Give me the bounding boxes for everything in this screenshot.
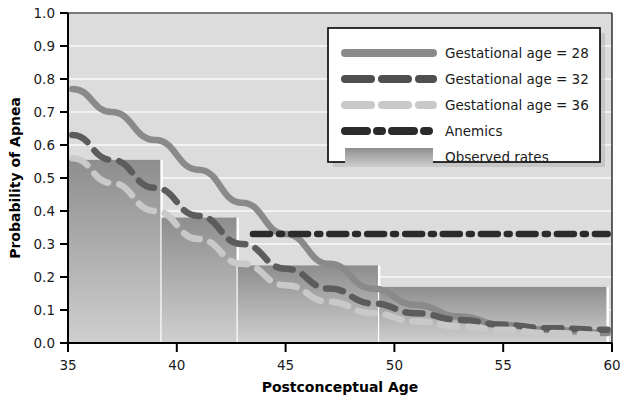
legend-label: Gestational age = 28 (445, 45, 589, 61)
apnea-probability-chart: 0.00.10.20.30.40.50.60.70.80.91.0 354045… (0, 0, 623, 402)
y-tick-label: 0.4 (34, 203, 55, 219)
legend-label: Gestational age = 36 (445, 97, 589, 113)
y-tick-label: 0.9 (34, 38, 55, 54)
chart-figure: 0.00.10.20.30.40.50.60.70.80.91.0 354045… (0, 0, 623, 402)
x-axis-title: Postconceptual Age (262, 379, 419, 395)
legend-label: Anemics (445, 123, 502, 139)
y-tick-label: 0.8 (34, 71, 55, 87)
x-tick-label: 50 (386, 357, 403, 373)
legend-label: Gestational age = 32 (445, 71, 589, 87)
legend-swatch-bar (345, 148, 433, 167)
x-tick-label: 55 (495, 357, 512, 373)
y-tick-label: 0.3 (34, 236, 55, 252)
x-tick-label: 45 (277, 357, 294, 373)
y-tick-label: 1.0 (34, 5, 55, 21)
y-tick-label: 0.1 (34, 302, 55, 318)
x-tick-label: 35 (59, 357, 76, 373)
y-tick-label: 0.6 (34, 137, 55, 153)
chart-legend: Gestational age = 28Gestational age = 32… (328, 28, 605, 167)
y-axis-title: Probability of Apnea (7, 97, 23, 259)
legend-label: Observed rates (445, 149, 549, 165)
x-tick-label: 60 (603, 357, 620, 373)
y-tick-label: 0.7 (34, 104, 55, 120)
y-tick-label: 0.2 (34, 269, 55, 285)
x-tick-label: 40 (168, 357, 185, 373)
y-tick-label: 0.5 (34, 170, 55, 186)
y-tick-label: 0.0 (34, 335, 55, 351)
